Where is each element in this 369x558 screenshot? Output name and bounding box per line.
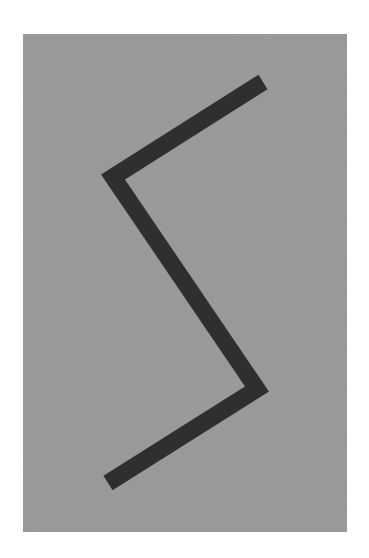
- artwork: [0, 0, 369, 558]
